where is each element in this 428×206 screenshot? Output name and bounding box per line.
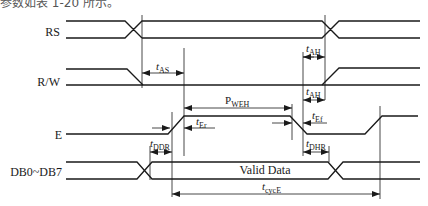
rw-waveform: [66, 68, 420, 85]
tdhr-label: tDHR: [306, 137, 327, 152]
tah-rw-label: tAH: [306, 85, 321, 100]
tdhr-dimension: tDHR: [303, 137, 329, 152]
tah-rs-dimension: tAH: [303, 42, 325, 57]
e-label: E: [55, 128, 62, 142]
rs-waveform: [66, 21, 420, 38]
pweh-dimension: PWEH: [184, 94, 292, 109]
tcyce-dimension: tcycE: [172, 180, 380, 195]
tah-rs-label: tAH: [306, 42, 321, 57]
tddr-dimension: tDDR: [150, 137, 172, 152]
tddr-label: tDDR: [150, 137, 171, 152]
db-label: DB0~DB7: [10, 165, 62, 179]
timing-diagram: RS R/W E DB0~DB7 Valid Data tAS: [0, 0, 428, 206]
valid-data-label: Valid Data: [240, 163, 292, 177]
tah-rw-dimension: tAH: [303, 85, 325, 100]
tef-label: tEf: [312, 109, 323, 124]
rw-label: R/W: [37, 75, 60, 89]
rs-label: RS: [45, 25, 60, 39]
tcyce-label: tcycE: [262, 180, 281, 195]
pweh-label: PWEH: [225, 94, 250, 109]
e-waveform: [66, 116, 418, 134]
tas-dimension: tAS: [142, 60, 184, 75]
